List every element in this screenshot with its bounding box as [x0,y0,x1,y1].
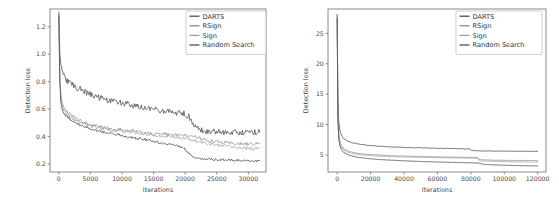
x-tick-label: 100000 [492,175,516,182]
x-tick-label: 0 [57,175,61,182]
legend-label-rsign: RSign [203,22,222,30]
y-tick-label: 1.0 [36,50,46,57]
y-tick-label: 10 [315,121,323,128]
x-tick-label: 20000 [175,175,195,182]
line-chart-right: 0200004000060000800001000001200005101520… [280,0,559,213]
x-axis-title: Iterations [421,186,452,194]
x-tick-label: 5000 [83,175,99,182]
y-axis-title: Detection loss [302,67,310,113]
y-tick-label: 5 [319,151,323,158]
line-chart-left: 0500010000150002000025000300000.20.40.60… [0,0,279,213]
y-tick-label: 0.2 [36,160,46,167]
x-tick-label: 15000 [144,175,164,182]
y-tick-label: 15 [315,90,323,97]
legend-label-darts: DARTS [203,13,225,21]
x-tick-label: 10000 [112,175,132,182]
x-tick-label: 40000 [394,175,414,182]
y-tick-label: 25 [315,30,323,37]
x-tick-label: 20000 [360,175,380,182]
figure-container: 0500010000150002000025000300000.20.40.60… [0,0,559,213]
y-tick-label: 1.2 [36,23,46,30]
legend-label-darts: DARTS [472,13,494,21]
y-tick-label: 0.8 [36,78,46,85]
x-tick-label: 60000 [427,175,447,182]
chart-panel-left: 0500010000150002000025000300000.20.40.60… [0,0,280,213]
x-tick-label: 80000 [460,175,480,182]
x-axis-title: Iterations [143,186,174,194]
legend-label-random-search: Random Search [203,41,255,49]
x-tick-label: 30000 [238,175,258,182]
legend-label-rsign: RSign [472,22,491,30]
legend-label-random-search: Random Search [472,41,524,49]
y-axis-title: Detection loss [24,67,32,113]
y-tick-label: 0.4 [36,133,46,140]
x-tick-label: 120000 [525,175,549,182]
legend-label-sign: Sign [472,32,486,40]
x-tick-label: 0 [335,175,339,182]
y-tick-label: 20 [315,60,323,67]
y-tick-label: 0.6 [36,105,46,112]
x-tick-label: 25000 [207,175,227,182]
chart-panel-right: 0200004000060000800001000001200005101520… [280,0,559,213]
legend-label-sign: Sign [203,32,217,40]
